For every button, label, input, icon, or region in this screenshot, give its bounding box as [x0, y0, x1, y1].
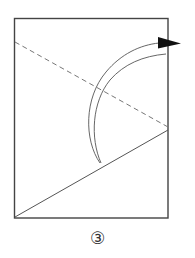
fold-diagram [0, 0, 195, 258]
step-number-label: ③ [0, 228, 195, 248]
arrowhead-icon [158, 37, 181, 49]
paper-sheet [15, 19, 169, 219]
